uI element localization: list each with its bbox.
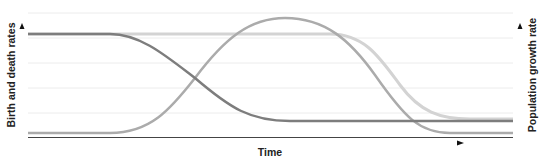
birth-rate-line — [28, 34, 513, 119]
right-y-axis-arrow — [518, 23, 523, 128]
x-axis-arrow — [75, 141, 464, 146]
right-axis-label-text: Population growth rate — [526, 18, 538, 132]
left-y-axis-arrow — [20, 23, 25, 126]
left-axis-label-text: Birth and death rates — [5, 22, 17, 127]
death-rate-line — [28, 34, 513, 121]
right-axis-label: Population growth rate — [525, 20, 539, 130]
left-axis-label: Birth and death rates — [4, 20, 18, 130]
x-axis-label: Time — [200, 146, 340, 158]
gridlines — [28, 13, 513, 113]
